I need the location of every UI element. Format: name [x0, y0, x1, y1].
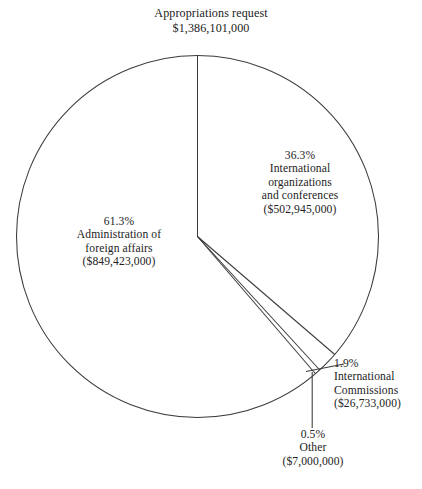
slice-label-international-commissions: 1.9% International Commissions ($26,733,…: [334, 357, 422, 411]
slice-value-international-commissions: ($26,733,000): [334, 397, 422, 410]
slice-value-administration: ($849,423,000): [30, 255, 208, 268]
chart-title-total: $1,386,101,000: [0, 21, 422, 36]
slice-name-international-commissions-line2: Commissions: [334, 384, 422, 397]
slice-name-international-organizations-line2: organizations: [218, 176, 382, 189]
slice-name-international-organizations-line1: International: [218, 162, 382, 175]
chart-title-line1: Appropriations request: [0, 6, 422, 21]
slice-percent-other: 0.5%: [258, 428, 368, 441]
slice-name-administration-line2: foreign affairs: [30, 242, 208, 255]
slice-value-international-organizations: ($502,945,000): [218, 203, 382, 216]
slice-percent-international-commissions: 1.9%: [334, 357, 422, 370]
slice-label-administration: 61.3% Administration of foreign affairs …: [30, 215, 208, 269]
chart-title: Appropriations request $1,386,101,000: [0, 6, 422, 35]
slice-percent-international-organizations: 36.3%: [218, 149, 382, 162]
slice-name-international-organizations-line3: and conferences: [218, 189, 382, 202]
slice-percent-administration: 61.3%: [30, 215, 208, 228]
slice-label-international-organizations: 36.3% International organizations and co…: [218, 149, 382, 216]
slice-value-other: ($7,000,000): [258, 455, 368, 468]
slice-name-other: Other: [258, 441, 368, 454]
pie-chart: Appropriations request $1,386,101,000 61…: [0, 0, 422, 489]
slice-name-administration-line1: Administration of: [30, 228, 208, 241]
slice-label-other: 0.5% Other ($7,000,000): [258, 428, 368, 468]
slice-name-international-commissions-line1: International: [334, 370, 422, 383]
